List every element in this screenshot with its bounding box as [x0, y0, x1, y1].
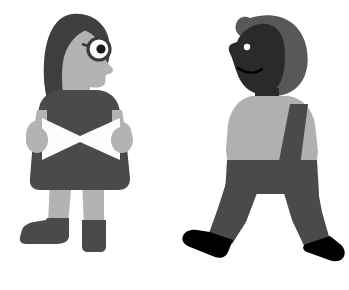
- right-shoe: [82, 220, 106, 252]
- left-hand: [26, 127, 48, 153]
- figures-illustration: [0, 0, 349, 290]
- right-hand: [111, 127, 133, 153]
- illustration-canvas: [0, 0, 349, 290]
- eye-pupil: [96, 44, 105, 53]
- eye: [244, 44, 250, 50]
